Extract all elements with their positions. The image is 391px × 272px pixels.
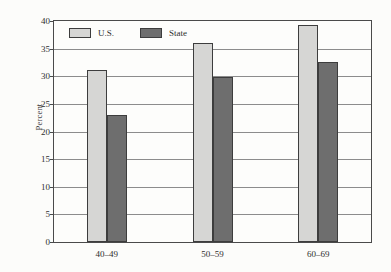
- y-axis-tick-label: 40: [41, 16, 50, 26]
- y-axis-tick-mark: [50, 159, 54, 160]
- y-axis-tick-label: 30: [41, 71, 50, 81]
- bar-state-60-69: [318, 62, 338, 242]
- y-axis-tick-mark: [50, 49, 54, 50]
- y-axis-title: Percent: [34, 87, 44, 147]
- bar-state-50-59: [213, 77, 233, 242]
- bar-us-50-59: [193, 43, 213, 242]
- y-axis-tick-mark: [50, 214, 54, 215]
- y-axis-tick-label: 20: [41, 127, 50, 137]
- y-axis-tick-mark: [50, 104, 54, 105]
- legend-label-us: U.S.: [98, 28, 114, 38]
- y-axis-tick-label: 5: [46, 209, 51, 219]
- legend: U.S. State: [65, 26, 191, 40]
- legend-swatch-us-icon: [69, 28, 91, 38]
- y-axis-tick-label: 35: [41, 44, 50, 54]
- bar-us-60-69: [298, 25, 318, 242]
- y-axis-tick-mark: [50, 242, 54, 243]
- y-axis-tick-label: 10: [41, 182, 50, 192]
- plot-area: 0510152025303540 40–4950–5960–69 U.S. St…: [53, 20, 372, 243]
- legend-label-state: State: [169, 28, 187, 38]
- chart-figure: Percent 0510152025303540 40–4950–5960–69…: [0, 0, 391, 272]
- y-axis-tick-mark: [50, 187, 54, 188]
- y-axis-tick-label: 0: [46, 237, 51, 247]
- y-axis-tick-mark: [50, 76, 54, 77]
- legend-entry-state: State: [140, 28, 187, 38]
- y-axis-tick-label: 15: [41, 154, 50, 164]
- legend-entry-us: U.S.: [69, 28, 114, 38]
- bar-state-40-49: [107, 115, 127, 242]
- bar-us-40-49: [87, 70, 107, 242]
- x-axis-tick-label: 60–69: [307, 249, 330, 259]
- y-axis-tick-mark: [50, 21, 54, 22]
- x-axis-tick-label: 40–49: [96, 249, 119, 259]
- y-axis-tick-label: 25: [41, 99, 50, 109]
- y-axis-tick-mark: [50, 132, 54, 133]
- legend-swatch-state-icon: [140, 28, 162, 38]
- gridline: [54, 49, 371, 50]
- x-axis-tick-label: 50–59: [201, 249, 224, 259]
